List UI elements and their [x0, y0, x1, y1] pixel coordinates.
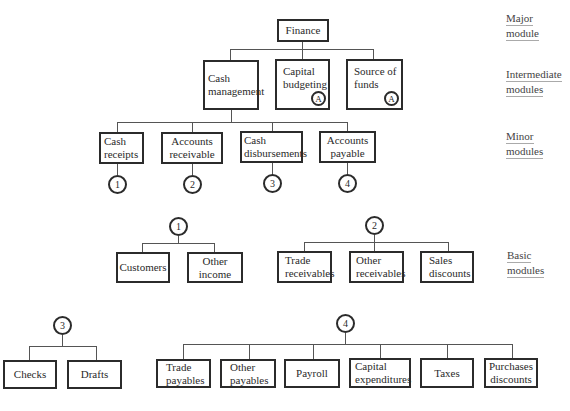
- module-payroll[interactable]: Payroll: [284, 359, 340, 388]
- connector-line: [62, 335, 63, 346]
- connector-line: [447, 344, 448, 359]
- module-label: Sales: [429, 254, 452, 267]
- connector-line: [142, 243, 143, 252]
- module-cash-disbursements[interactable]: Cash disbursements: [240, 131, 303, 163]
- module-checks[interactable]: Checks: [3, 360, 57, 389]
- connector-label: 1: [176, 222, 181, 232]
- module-label: receipts: [104, 148, 138, 161]
- module-label: Cash: [104, 135, 126, 148]
- module-label: Finance: [286, 24, 321, 37]
- connector-line: [142, 243, 215, 244]
- module-label: discounts: [490, 373, 532, 386]
- module-label: receivable: [169, 148, 214, 161]
- module-other-receivables[interactable]: Other receivables: [349, 251, 404, 283]
- module-customers[interactable]: Customers: [116, 252, 170, 283]
- module-label: Purchases: [489, 360, 533, 373]
- offpage-connector-4[interactable]: 4: [338, 174, 357, 193]
- module-label: Payroll: [296, 367, 328, 380]
- module-label: Checks: [14, 368, 46, 381]
- onpage-connector-2[interactable]: 2: [365, 216, 384, 235]
- module-other-income[interactable]: Other income: [187, 252, 243, 283]
- module-label: expenditures: [355, 373, 411, 386]
- offpage-connector-3[interactable]: 3: [263, 174, 282, 193]
- module-label: Other: [202, 255, 227, 268]
- module-label: Trade: [285, 254, 310, 267]
- level-label-line: Major: [506, 12, 533, 26]
- module-taxes[interactable]: Taxes: [420, 358, 474, 388]
- connector-label: 3: [60, 321, 65, 331]
- offpage-connector-a[interactable]: A: [311, 91, 326, 106]
- module-label: Other: [230, 361, 255, 374]
- module-label: Accounts: [171, 135, 213, 148]
- level-label-major: Major module: [506, 12, 539, 42]
- module-label: management: [208, 85, 264, 98]
- connector-label: 4: [345, 179, 350, 189]
- connector-label: 1: [115, 180, 120, 190]
- module-label: Source of: [354, 65, 396, 78]
- connector-line: [512, 344, 513, 359]
- module-trade-receivables[interactable]: Trade receivables: [277, 251, 332, 283]
- module-sales-discounts[interactable]: Sales discounts: [420, 251, 474, 283]
- module-other-payables[interactable]: Other payables: [220, 359, 276, 388]
- connector-line: [117, 164, 118, 175]
- level-label-line: modules: [507, 264, 544, 278]
- module-accounts-payable[interactable]: Accounts payable: [319, 131, 376, 163]
- onpage-connector-1[interactable]: 1: [169, 217, 188, 236]
- connector-line: [178, 236, 179, 243]
- level-label-intermediate: Intermediate modules: [506, 68, 562, 98]
- module-label: receivables: [285, 267, 334, 280]
- connector-line: [380, 344, 381, 359]
- connector-line: [374, 242, 375, 251]
- connector-line: [192, 164, 193, 175]
- connector-label: 3: [270, 179, 275, 189]
- connector-line: [249, 344, 250, 359]
- module-label: payable: [330, 147, 364, 160]
- offpage-connector-2[interactable]: 2: [183, 175, 202, 194]
- module-trade-payables[interactable]: Trade payables: [156, 359, 211, 388]
- module-label: Capital: [283, 65, 315, 78]
- connector-line: [183, 344, 184, 359]
- module-finance[interactable]: Finance: [277, 19, 329, 42]
- connector-line: [183, 344, 513, 345]
- connector-line: [230, 49, 231, 60]
- module-label: payables: [166, 374, 204, 387]
- onpage-connector-3[interactable]: 3: [53, 316, 72, 335]
- offpage-connector-1[interactable]: 1: [108, 175, 127, 194]
- connector-label: 4: [343, 319, 348, 329]
- module-label: income: [199, 268, 231, 281]
- level-label-line: Basic: [507, 249, 531, 263]
- connector-line: [231, 110, 232, 122]
- onpage-connector-4[interactable]: 4: [336, 314, 355, 333]
- module-label: Drafts: [81, 368, 109, 381]
- module-label: Customers: [119, 261, 166, 274]
- connector-line: [304, 242, 305, 251]
- module-purchases-discounts[interactable]: Purchases discounts: [484, 358, 538, 388]
- module-label: Trade: [166, 361, 191, 374]
- offpage-connector-a[interactable]: A: [384, 91, 399, 106]
- connector-line: [117, 122, 348, 123]
- module-label: Accounts: [327, 134, 369, 147]
- module-label: payables: [230, 374, 268, 387]
- module-label: Other: [356, 254, 381, 267]
- module-capital-expenditures[interactable]: Capital expenditures: [349, 358, 411, 388]
- connector-line: [302, 41, 303, 49]
- connector-line: [29, 346, 30, 360]
- module-cash-management[interactable]: Cash management: [203, 60, 259, 110]
- module-label: budgeting: [283, 78, 327, 91]
- module-label: funds: [354, 78, 378, 91]
- connector-line: [96, 346, 97, 360]
- connector-label: A: [315, 94, 322, 104]
- module-drafts[interactable]: Drafts: [67, 360, 122, 389]
- level-label-line: Intermediate: [506, 68, 562, 82]
- module-label: receivables: [356, 267, 405, 280]
- connector-line: [214, 243, 215, 252]
- level-label-line: modules: [506, 83, 543, 97]
- connector-line: [29, 346, 97, 347]
- module-accounts-receivable[interactable]: Accounts receivable: [161, 132, 223, 164]
- module-label: Cash: [208, 72, 230, 85]
- level-label-line: Minor: [506, 130, 534, 144]
- connector-label: A: [388, 94, 395, 104]
- module-label: discounts: [429, 267, 471, 280]
- module-cash-receipts[interactable]: Cash receipts: [99, 132, 144, 164]
- module-label: Cash: [244, 134, 266, 147]
